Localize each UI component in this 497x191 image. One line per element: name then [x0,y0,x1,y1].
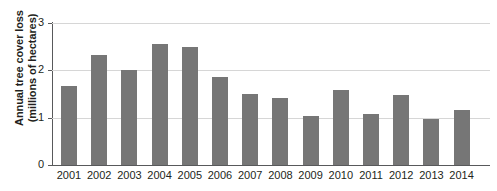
y-tick-label: 0 [28,159,44,170]
plot-area [52,23,490,165]
y-tick-label-wrap: 2 [28,64,44,75]
y-tick-label: 3 [28,17,44,28]
x-tick-label: 2012 [384,169,418,181]
bar [303,116,319,165]
x-tick-label: 2011 [354,169,388,181]
bar [61,86,77,165]
x-tick-label: 2008 [263,169,297,181]
x-tick-label: 2004 [143,169,177,181]
gridline [52,23,490,24]
bar [242,94,258,165]
x-tick-label: 2013 [414,169,448,181]
bar [182,47,198,165]
x-tick-label: 2009 [294,169,328,181]
x-tick-label: 2010 [324,169,358,181]
x-tick-label: 2014 [445,169,479,181]
bar [212,77,228,165]
bar [272,98,288,165]
x-tick-label: 2001 [52,169,86,181]
bar [91,55,107,165]
x-tick-label: 2007 [233,169,267,181]
y-tick-label-wrap: 1 [28,112,44,123]
bar [423,119,439,165]
x-axis-line [52,165,490,166]
gridline [52,70,490,71]
y-tick-label: 2 [28,64,44,75]
x-tick-label: 2002 [82,169,116,181]
y-tick-label-wrap: 3 [28,17,44,28]
x-tick-label: 2005 [173,169,207,181]
bar [152,44,168,165]
bar [393,95,409,165]
bar [454,110,470,165]
bar [363,114,379,165]
x-tick-label: 2006 [203,169,237,181]
y-tick-label-wrap: 0 [28,159,44,170]
y-tick-label: 1 [28,112,44,123]
y-axis-title-line-1: Annual tree cover loss [13,10,26,126]
bar-chart: Annual tree cover loss (millions of hect… [0,0,497,191]
bar [121,70,137,165]
x-tick-label: 2003 [112,169,146,181]
bar [333,90,349,165]
